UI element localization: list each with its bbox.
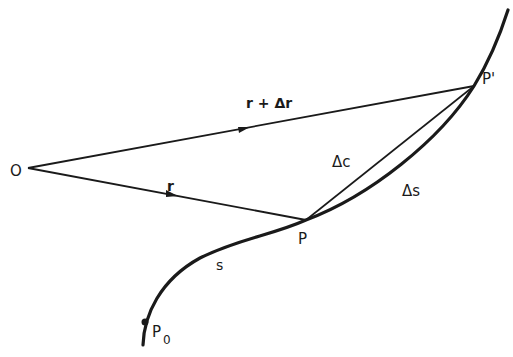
label-p0-subscript: 0 [163,333,171,347]
label-chord: Δc [332,153,351,171]
label-arc: Δs [402,182,420,200]
label-p: P [298,230,307,248]
label-vector-r-plus-dr: r + Δr [246,95,292,111]
label-origin: O [10,162,22,180]
arrowhead-r-plus-dr-icon [238,127,250,133]
diagram-canvas: O P P' P 0 r r + Δr Δc Δs s [0,0,513,357]
label-arc-length: s [216,257,223,273]
label-p-prime: P' [482,70,495,88]
point-p0-dot [142,319,149,326]
space-curve [143,10,508,345]
label-p0: P [152,323,161,341]
label-vector-r: r [167,178,174,194]
